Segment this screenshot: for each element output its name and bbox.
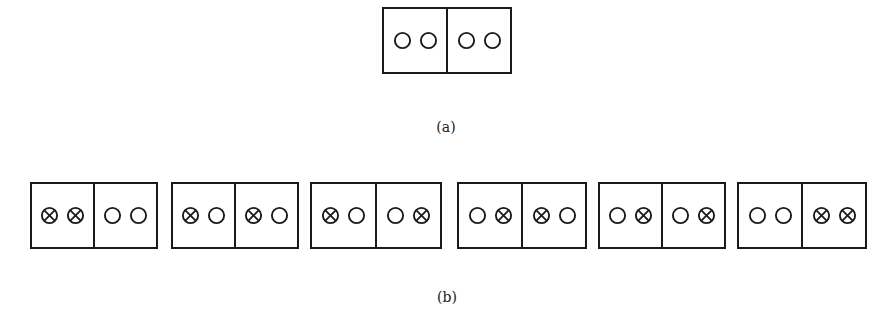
crossed-circle-icon (494, 206, 513, 225)
crossed-circle-icon (321, 206, 340, 225)
config-box-b3 (310, 182, 442, 249)
cell-right (521, 184, 585, 247)
crossed-circle-icon (634, 206, 653, 225)
cell-left (459, 184, 521, 247)
cell-left (384, 9, 446, 72)
cell-left (173, 184, 234, 247)
open-circle-icon (608, 206, 627, 225)
crossed-circle-icon (697, 206, 716, 225)
open-circle-icon (468, 206, 487, 225)
cell-right (93, 184, 156, 247)
open-circle-icon (558, 206, 577, 225)
crossed-circle-icon (838, 206, 857, 225)
open-circle-icon (774, 206, 793, 225)
config-box-b2 (171, 182, 299, 249)
cell-right (234, 184, 297, 247)
open-circle-icon (347, 206, 366, 225)
crossed-circle-icon (181, 206, 200, 225)
label-a: (a) (436, 119, 455, 135)
config-box-b4 (457, 182, 587, 249)
open-circle-icon (207, 206, 226, 225)
config-box-b5 (598, 182, 726, 249)
cell-right (661, 184, 724, 247)
open-circle-icon (393, 31, 412, 50)
open-circle-icon (671, 206, 690, 225)
crossed-circle-icon (412, 206, 431, 225)
open-circle-icon (748, 206, 767, 225)
crossed-circle-icon (532, 206, 551, 225)
config-box-a (382, 7, 512, 74)
crossed-circle-icon (812, 206, 831, 225)
cell-left (312, 184, 375, 247)
cell-left (739, 184, 801, 247)
open-circle-icon (103, 206, 122, 225)
open-circle-icon (419, 31, 438, 50)
cell-left (32, 184, 93, 247)
crossed-circle-icon (40, 206, 59, 225)
open-circle-icon (483, 31, 502, 50)
cell-right (801, 184, 865, 247)
open-circle-icon (129, 206, 148, 225)
crossed-circle-icon (66, 206, 85, 225)
cell-left (600, 184, 661, 247)
crossed-circle-icon (244, 206, 263, 225)
open-circle-icon (386, 206, 405, 225)
cell-right (446, 9, 510, 72)
cell-right (375, 184, 440, 247)
open-circle-icon (457, 31, 476, 50)
open-circle-icon (270, 206, 289, 225)
label-b: (b) (437, 289, 457, 305)
config-box-b1 (30, 182, 158, 249)
config-box-b6 (737, 182, 867, 249)
